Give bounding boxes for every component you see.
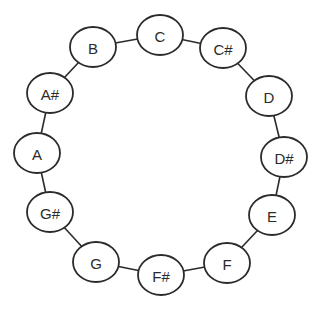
node-d: D (246, 76, 292, 116)
edges-group (37, 35, 284, 275)
node-gs: G# (27, 192, 73, 232)
node-as: A# (27, 73, 73, 113)
node-cs: C# (200, 28, 246, 68)
nodes-group: CC#DD#EFF#GG#AA#B (14, 15, 307, 295)
node-g: G (73, 242, 119, 282)
node-b: B (70, 27, 116, 67)
node-label: G# (40, 205, 61, 222)
node-label: F# (152, 268, 170, 285)
node-c: C (137, 15, 183, 55)
node-label: F (222, 256, 231, 273)
node-label: C# (213, 41, 233, 58)
node-e: E (249, 195, 295, 235)
chromatic-circle-diagram: CC#DD#EFF#GG#AA#B (0, 0, 321, 309)
node-label: E (267, 208, 277, 225)
node-ds: D# (261, 137, 307, 177)
node-label: D (264, 89, 275, 106)
node-label: A (32, 146, 42, 163)
node-fs: F# (138, 255, 184, 295)
node-label: D# (274, 150, 294, 167)
node-label: B (88, 40, 98, 57)
node-label: A# (41, 86, 60, 103)
node-label: C (155, 28, 166, 45)
node-a: A (14, 133, 60, 173)
node-f: F (204, 243, 250, 283)
node-label: G (90, 255, 102, 272)
